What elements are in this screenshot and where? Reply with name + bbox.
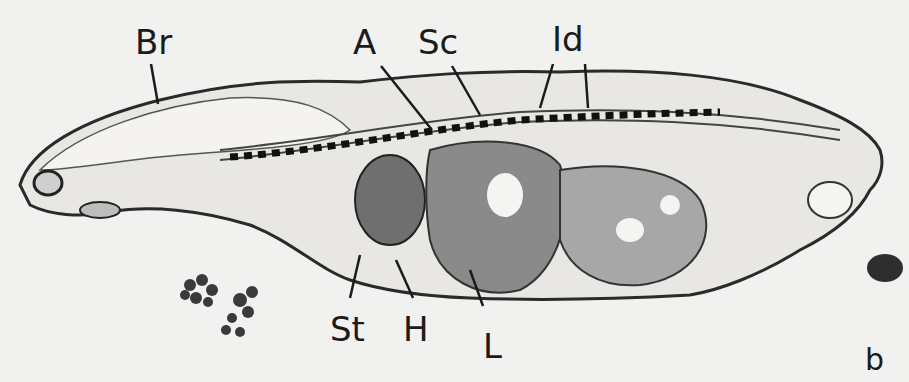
label-liver: L (483, 329, 502, 363)
label-heart: H (403, 312, 429, 346)
label-aorta: A (353, 25, 376, 59)
label-brain: Br (135, 25, 172, 59)
histology-figure-panel: Br A Sc Id St H L b (0, 0, 909, 382)
label-spinal-cord: Sc (418, 25, 458, 59)
label-stomach: St (330, 312, 365, 346)
panel-label: b (865, 345, 884, 375)
label-intervertebral-disc: Id (552, 22, 584, 56)
